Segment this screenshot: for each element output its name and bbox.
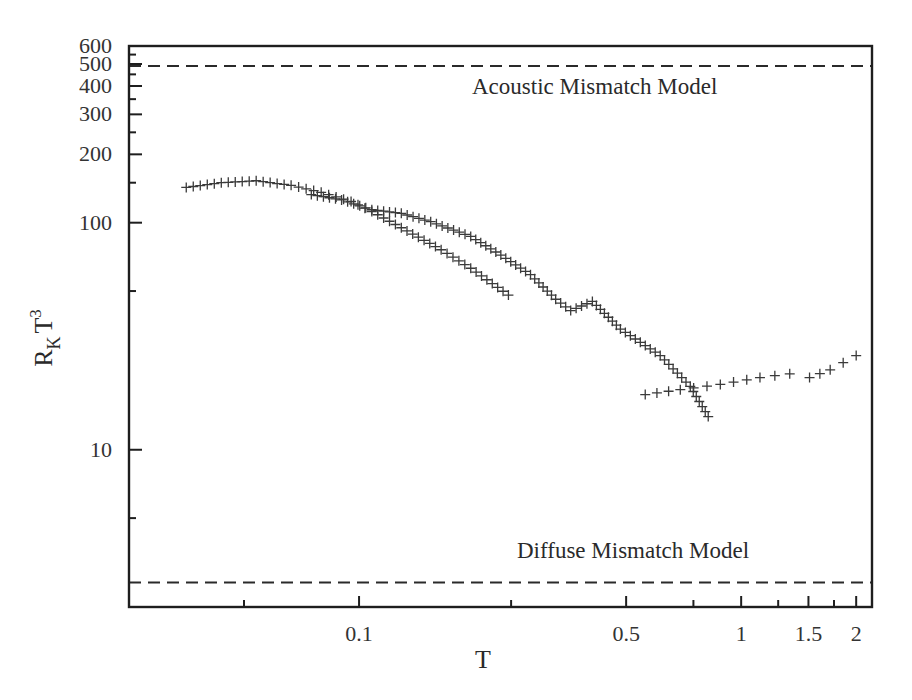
- series-1: [181, 176, 513, 300]
- plus-marker: [414, 213, 424, 223]
- plus-marker: [373, 205, 383, 215]
- plus-marker: [294, 182, 304, 192]
- x-tick-label: 1: [736, 621, 747, 646]
- plus-marker: [449, 225, 459, 235]
- y-tick-label: 600: [79, 33, 112, 58]
- plus-marker: [318, 192, 328, 202]
- plus-marker: [582, 299, 592, 309]
- plus-marker: [851, 351, 861, 361]
- y-title-r: R: [29, 349, 58, 367]
- plus-marker: [677, 373, 687, 383]
- plus-marker: [571, 303, 581, 313]
- plus-marker: [431, 219, 441, 229]
- plus-marker: [209, 179, 219, 189]
- y-axis-title: RKT3: [26, 309, 64, 367]
- reference-lines: [129, 66, 872, 583]
- plus-marker: [664, 386, 674, 396]
- plus-marker: [331, 194, 341, 204]
- series-3: [640, 351, 861, 400]
- x-tick-label: 0.1: [345, 621, 373, 646]
- y-tick-label: 300: [79, 101, 112, 126]
- y-tick-label: 100: [79, 210, 112, 235]
- x-axis-title: T: [475, 645, 491, 674]
- x-tick-label: 0.5: [612, 621, 640, 646]
- plus-marker: [702, 381, 712, 391]
- plus-marker: [272, 179, 282, 189]
- plus-marker: [815, 369, 825, 379]
- y-tick-label: 10: [90, 437, 112, 462]
- plus-marker: [660, 355, 670, 365]
- plus-marker: [195, 181, 205, 191]
- y-axis-ticks: 10100200300400500600: [79, 33, 142, 518]
- plus-marker: [286, 180, 296, 190]
- plus-marker: [668, 364, 678, 374]
- plot-border: [129, 46, 872, 607]
- plot-frame: [129, 46, 872, 607]
- x-axis-ticks: 0.10.511.52: [244, 596, 862, 646]
- amm-label: Acoustic Mismatch Model: [472, 74, 717, 99]
- plus-marker: [367, 205, 377, 215]
- y-title-sup: 3: [26, 309, 45, 318]
- series-2: [306, 190, 713, 422]
- y-tick-label: 200: [79, 141, 112, 166]
- plus-marker: [460, 229, 470, 239]
- plus-marker: [355, 201, 365, 211]
- plus-marker: [390, 208, 400, 218]
- dmm-label: Diffuse Mismatch Model: [517, 538, 749, 563]
- plus-marker: [672, 368, 682, 378]
- plus-marker: [420, 215, 430, 225]
- data-series: [181, 176, 861, 422]
- plus-marker: [825, 365, 835, 375]
- plus-marker: [279, 179, 289, 189]
- plus-marker: [396, 208, 406, 218]
- plus-marker: [202, 180, 212, 190]
- plus-marker: [426, 217, 436, 227]
- plus-marker: [652, 388, 662, 398]
- plus-marker: [437, 221, 447, 231]
- plus-marker: [349, 199, 359, 209]
- plus-marker: [770, 371, 780, 381]
- svg-text:RKT3: RKT3: [26, 309, 64, 367]
- y-title-sub: K: [44, 337, 64, 350]
- plus-marker: [664, 359, 674, 369]
- x-tick-label: 1.5: [795, 621, 823, 646]
- plus-marker: [785, 369, 795, 379]
- plus-marker: [755, 373, 765, 383]
- plus-marker: [402, 210, 412, 220]
- plus-marker: [301, 184, 311, 194]
- plus-marker: [681, 377, 691, 387]
- plus-marker: [181, 182, 191, 192]
- plus-marker: [805, 373, 815, 383]
- plus-marker: [729, 377, 739, 387]
- plus-marker: [640, 390, 650, 400]
- plus-marker: [258, 177, 268, 187]
- plus-marker: [838, 358, 848, 368]
- y-tick-label: 400: [79, 73, 112, 98]
- chart-figure: 0.10.511.52 10100200300400500600 Acousti…: [0, 0, 912, 700]
- plus-marker: [742, 375, 752, 385]
- plus-marker: [385, 207, 395, 217]
- y-title-t: T: [29, 318, 58, 334]
- plus-marker: [577, 301, 587, 311]
- plus-marker: [408, 212, 418, 222]
- plus-marker: [715, 379, 725, 389]
- plus-marker: [454, 227, 464, 237]
- plus-marker: [675, 385, 685, 395]
- plus-marker: [188, 181, 198, 191]
- plus-marker: [265, 178, 275, 188]
- plus-marker: [251, 176, 261, 186]
- x-tick-label: 2: [851, 621, 862, 646]
- plus-marker: [443, 223, 453, 233]
